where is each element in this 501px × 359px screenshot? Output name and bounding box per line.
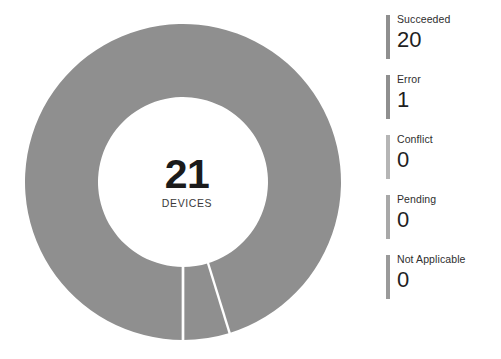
legend-item[interactable]: Pending0 — [386, 194, 498, 240]
legend-item[interactable]: Not Applicable0 — [386, 254, 498, 300]
legend-text: Error1 — [397, 74, 421, 111]
legend-item[interactable]: Conflict0 — [386, 134, 498, 180]
legend-item-value: 0 — [397, 268, 466, 291]
legend-item-value: 0 — [397, 208, 436, 231]
legend-bar-icon — [386, 195, 390, 239]
legend-item-label: Pending — [397, 194, 436, 205]
legend-item-value: 0 — [397, 148, 433, 171]
legend-item-label: Conflict — [397, 134, 433, 145]
legend-item-label: Succeeded — [397, 14, 450, 25]
legend-text: Succeeded20 — [397, 14, 450, 51]
legend-item-label: Error — [397, 74, 421, 85]
legend-bar-icon — [386, 75, 390, 119]
chart-legend: Succeeded20Error1Conflict0Pending0Not Ap… — [386, 14, 498, 300]
legend-bar-icon — [386, 135, 390, 179]
legend-item[interactable]: Error1 — [386, 74, 498, 120]
legend-bar-icon — [386, 15, 390, 59]
donut-slice-group — [25, 24, 341, 341]
legend-item-value: 1 — [397, 88, 421, 111]
legend-text: Pending0 — [397, 194, 436, 231]
legend-item[interactable]: Succeeded20 — [386, 14, 498, 60]
donut-chart-widget: 21 DEVICES Succeeded20Error1Conflict0Pen… — [0, 0, 501, 359]
legend-item-label: Not Applicable — [397, 254, 466, 265]
legend-text: Conflict0 — [397, 134, 433, 171]
donut-chart[interactable]: 21 DEVICES — [0, 0, 375, 359]
legend-text: Not Applicable0 — [397, 254, 466, 291]
legend-bar-icon — [386, 255, 390, 299]
legend-item-value: 20 — [397, 28, 450, 51]
donut-chart-svg — [0, 0, 375, 359]
